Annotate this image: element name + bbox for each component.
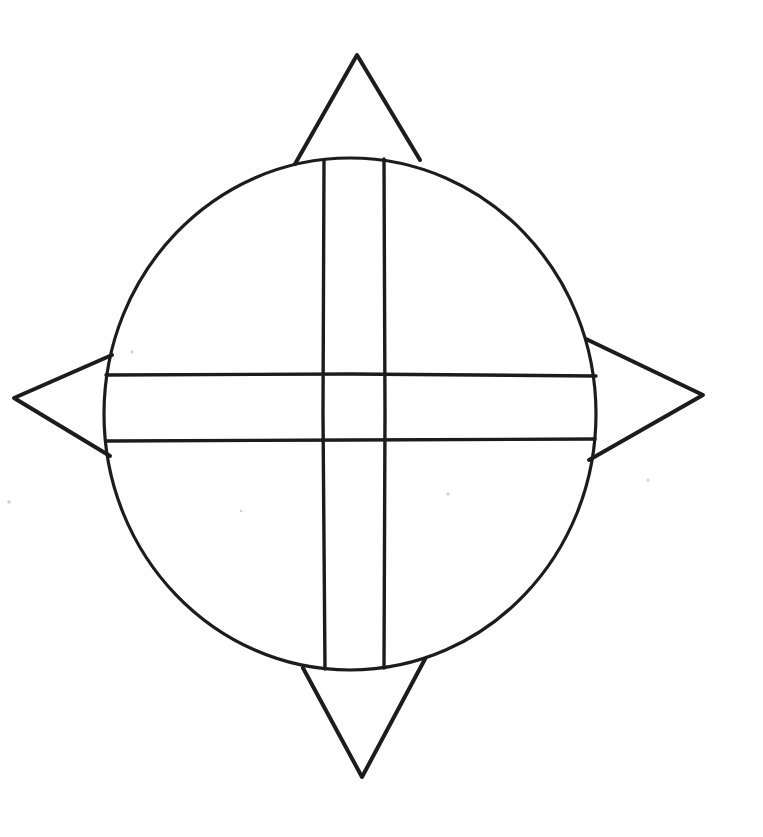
background-rect	[0, 0, 763, 837]
horizontal-band-bottom-edge	[107, 439, 595, 441]
drawing-canvas: Compass rose with circle, cross bands an…	[0, 0, 763, 837]
paper-speck	[240, 510, 243, 513]
paper-speck	[647, 479, 650, 482]
paper-speck	[131, 351, 134, 354]
vertical-band-left-edge	[323, 160, 325, 669]
horizontal-band-top-edge	[106, 374, 596, 376]
compass-rose-figure: Compass rose outline drawing Hand-drawn …	[0, 0, 763, 837]
vertical-band-right-edge	[384, 159, 385, 668]
paper-speck	[446, 492, 449, 495]
paper-speck	[7, 500, 11, 504]
